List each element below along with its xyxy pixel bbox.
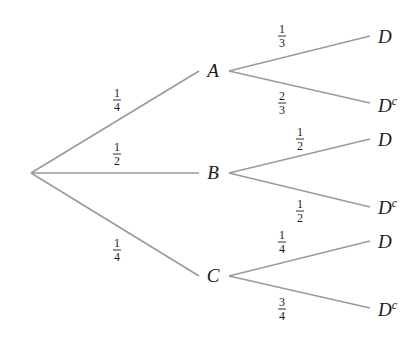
fraction-denominator: 3 — [279, 103, 285, 117]
node-c: C — [207, 265, 220, 286]
edge-prob-c-dc: 34 — [278, 295, 286, 323]
edge-c-to-d — [229, 241, 370, 276]
node-a: A — [205, 60, 219, 81]
edge-a-to-d — [229, 36, 370, 71]
node-b: B — [207, 162, 219, 183]
fraction-denominator: 4 — [114, 250, 120, 264]
edge-a-to-dc — [229, 71, 370, 103]
node-a-d: D — [377, 26, 392, 47]
fraction-denominator: 2 — [114, 154, 120, 168]
fraction-numerator: 3 — [279, 295, 285, 309]
fraction-numerator: 1 — [297, 197, 303, 211]
edge-c-to-dc — [229, 276, 370, 308]
edge-prob-a: 14 — [113, 86, 121, 114]
fraction-numerator: 1 — [297, 125, 303, 139]
fraction-numerator: 1 — [279, 228, 285, 242]
fraction-denominator: 4 — [114, 100, 120, 114]
node-c-d: D — [377, 231, 392, 252]
edge-prob-b-dc: 12 — [296, 197, 304, 225]
fraction-numerator: 1 — [279, 22, 285, 36]
fraction-numerator: 1 — [114, 86, 120, 100]
edge-prob-b: 12 — [113, 140, 121, 168]
fraction-denominator: 2 — [297, 139, 303, 153]
edge-prob-a-dc: 23 — [278, 89, 286, 117]
fraction-denominator: 3 — [279, 36, 285, 50]
fraction-numerator: 2 — [279, 89, 285, 103]
node-b-d: D — [377, 129, 392, 150]
node-a-d-complement: Dc — [377, 94, 398, 116]
fraction-numerator: 1 — [114, 236, 120, 250]
node-b-d-complement: Dc — [377, 196, 398, 218]
edge-prob-b-d: 12 — [296, 125, 304, 153]
edge-prob-a-d: 13 — [278, 22, 286, 50]
fraction-numerator: 1 — [114, 140, 120, 154]
edge-prob-c-d: 14 — [278, 228, 286, 256]
edge-prob-c: 14 — [113, 236, 121, 264]
fraction-denominator: 4 — [279, 242, 285, 256]
probability-tree-diagram: 14A13D23Dc12B12D12Dc14C14D34Dc — [0, 0, 415, 354]
fraction-denominator: 2 — [297, 211, 303, 225]
node-c-d-complement: Dc — [377, 298, 398, 320]
fraction-denominator: 4 — [279, 309, 285, 323]
